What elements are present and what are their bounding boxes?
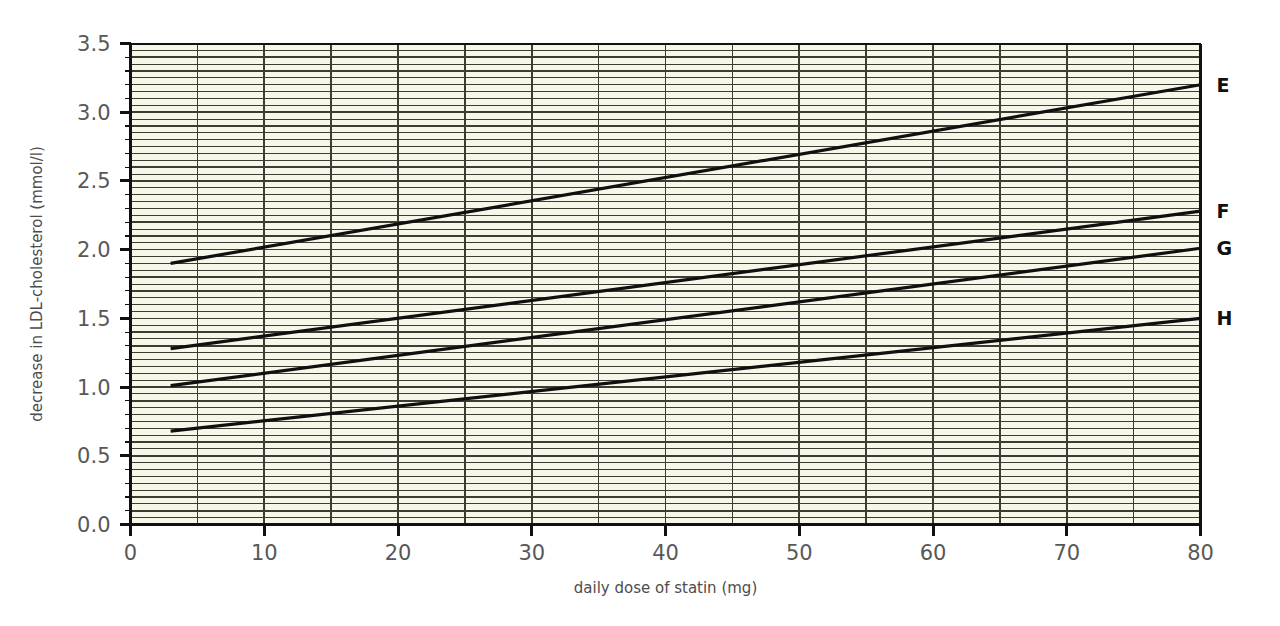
- x-axis-tick-label: 80: [1187, 541, 1214, 565]
- x-axis-tick-label: 40: [652, 541, 679, 565]
- y-axis-tick-label: 0.5: [77, 444, 110, 468]
- x-axis-title: daily dose of statin (mg): [574, 579, 757, 597]
- y-axis-tick-label: 0.0: [77, 513, 110, 537]
- x-axis-tick-label: 0: [124, 541, 137, 565]
- series-label-g: G: [1217, 237, 1233, 259]
- x-axis-tick-label: 70: [1053, 541, 1080, 565]
- y-axis-tick-label: 3.0: [77, 101, 110, 125]
- line-chart: 0.00.51.01.52.02.53.03.5 010203040506070…: [0, 0, 1280, 626]
- x-axis-tick-label: 20: [385, 541, 412, 565]
- x-axis-tick-label: 30: [518, 541, 545, 565]
- series-label-h: H: [1217, 307, 1233, 329]
- y-axis-tick-label: 2.5: [77, 169, 110, 193]
- y-axis-tick-label: 1.5: [77, 307, 110, 331]
- series-label-f: F: [1217, 200, 1230, 222]
- y-axis-tick-label: 2.0: [77, 238, 110, 262]
- x-axis-tick-label: 60: [920, 541, 947, 565]
- chart-container: 0.00.51.01.52.02.53.03.5 010203040506070…: [0, 0, 1280, 626]
- y-axis-title: decrease in LDL-cholesterol (mmol/l): [28, 146, 46, 422]
- x-axis-tick-label: 10: [251, 541, 278, 565]
- y-axis-tick-label: 1.0: [77, 376, 110, 400]
- y-axis-tick-label: 3.5: [77, 32, 110, 56]
- series-label-e: E: [1217, 74, 1230, 96]
- x-axis-tick-label: 50: [786, 541, 813, 565]
